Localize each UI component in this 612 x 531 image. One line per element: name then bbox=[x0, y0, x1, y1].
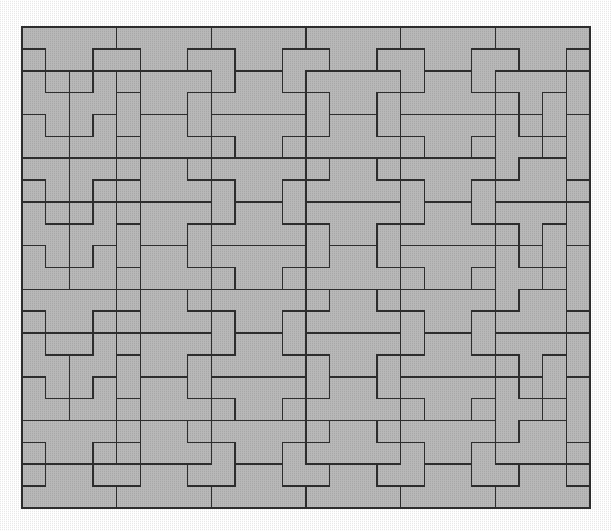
tiling-diagram bbox=[0, 0, 612, 531]
figure-root: T-tetromino tessellation A rectangular r… bbox=[0, 0, 612, 531]
